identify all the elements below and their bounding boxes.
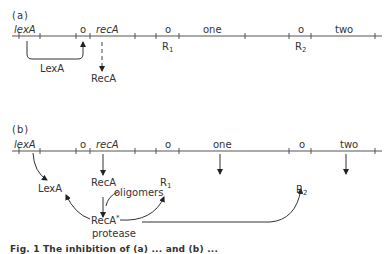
R2-text: R (295, 41, 302, 52)
RecAstar-cleaves-R1-arrow (120, 197, 164, 220)
operator-o2-b: o (165, 139, 171, 150)
R1-text: R (162, 41, 169, 52)
panel-a-label: (a) (12, 10, 29, 21)
gene-lexA-a: lexA (14, 24, 36, 35)
operator-o2-a: o (165, 24, 171, 35)
gene-recA-a: recA (96, 24, 119, 35)
R2-subscript: 2 (302, 46, 306, 54)
lexA-repression-arrow (27, 41, 83, 59)
protease-label: protease (92, 228, 136, 239)
RecAstar-text: RecA (91, 215, 116, 226)
R2-text: R (296, 184, 303, 195)
gene-recA-b: recA (96, 139, 119, 150)
R1-subscript: 1 (167, 182, 171, 190)
protein-RecAstar: RecA* (91, 215, 120, 226)
gene-two-b: two (340, 139, 358, 150)
panel-b-chromosome-axis (12, 148, 382, 154)
gene-lexA-b: lexA (14, 139, 36, 150)
RecAstar-cleaves-R2-arrow (142, 189, 301, 222)
RecAstar-cleaves-LexA-arrow (66, 195, 90, 219)
figure-caption: Fig. 1 The inhibition of (a) ... and (b)… (10, 244, 218, 254)
R1-subscript: 1 (169, 46, 173, 54)
operator-o3-a: o (298, 24, 304, 35)
repressor-R2-b: R2 (296, 184, 307, 195)
panel-a-chromosome-axis (12, 33, 382, 39)
R2-subscript: 2 (303, 189, 307, 197)
gene-two-a: two (335, 24, 353, 35)
gene-one-a: one (203, 24, 222, 35)
lexA-to-LexA-arrow (33, 153, 47, 180)
repressor-R2-a: R2 (295, 41, 306, 52)
protein-RecA-a: RecA (91, 73, 116, 84)
protein-RecA-b: RecA (91, 177, 116, 188)
oligomers-label: oligomers (114, 187, 163, 198)
repressor-R1-a: R1 (162, 41, 173, 52)
operator-o1-a: o (80, 24, 86, 35)
protein-LexA-b: LexA (38, 183, 62, 194)
gene-one-b: one (213, 139, 232, 150)
protein-LexA-a: LexA (40, 63, 64, 74)
panel-b-label: (b) (12, 124, 29, 135)
operator-o3-b: o (299, 139, 305, 150)
operator-o1-b: o (80, 139, 86, 150)
RecAstar-superscript: * (116, 214, 120, 222)
